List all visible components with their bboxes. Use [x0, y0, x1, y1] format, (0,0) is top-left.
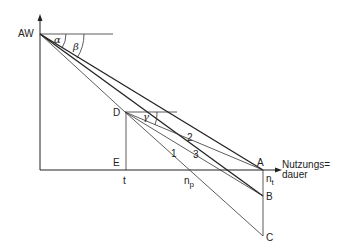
label-line-3: 3	[193, 149, 199, 160]
tick-np: np	[184, 175, 195, 189]
depreciation-diagram: AW α β γ D E A B C 1 2 3 t np nt Nutzung…	[0, 0, 343, 252]
label-line-1: 1	[171, 148, 177, 159]
label-c: C	[266, 232, 273, 243]
label-alpha: α	[54, 34, 61, 45]
label-b: B	[266, 191, 273, 202]
label-e: E	[113, 157, 120, 168]
line-1-d-to-c	[125, 112, 263, 236]
tick-t: t	[123, 175, 126, 186]
tick-nt: nt	[266, 173, 275, 187]
label-a: A	[257, 157, 264, 168]
label-d: D	[113, 107, 120, 118]
label-line-2: 2	[187, 132, 193, 143]
label-gamma: γ	[143, 111, 149, 122]
label-beta: β	[72, 41, 79, 52]
y-axis	[38, 14, 43, 170]
line-aw-to-b	[40, 34, 263, 196]
arc-alpha	[62, 34, 66, 48]
label-aw: AW	[18, 28, 34, 39]
x-axis-label-line2: dauer	[282, 169, 308, 180]
line-aw-to-a	[40, 34, 263, 170]
x-axis	[40, 168, 282, 173]
